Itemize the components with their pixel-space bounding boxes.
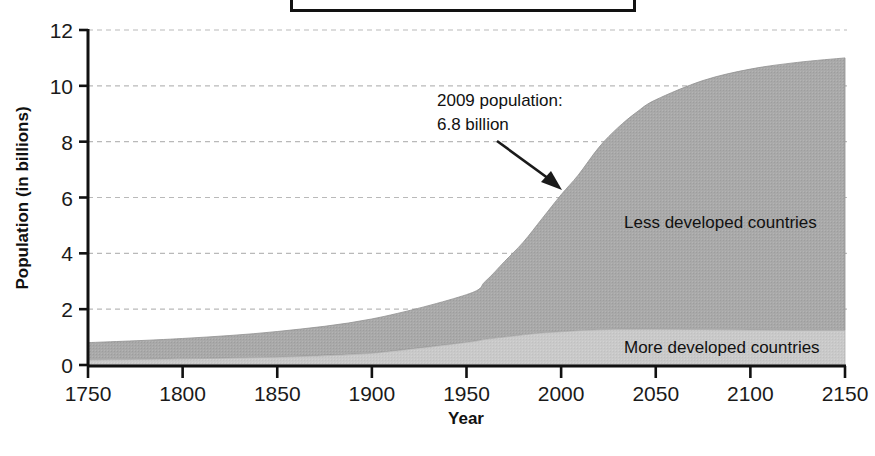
annotation-2009-population: 2009 population: 6.8 billion (437, 91, 563, 190)
x-tick-label-2150: 2150 (822, 382, 869, 405)
population-chart-figure: 024681012 175018001850190019502000205021… (0, 0, 875, 456)
x-tick-label-1900: 1900 (349, 382, 396, 405)
x-tick-label-2000: 2000 (538, 382, 585, 405)
annotation-line-1: 2009 population: (437, 91, 563, 110)
y-tick-label-0: 0 (61, 354, 73, 377)
y-tick-label-2: 2 (61, 298, 73, 321)
x-axis-tick-labels: 175018001850190019502000205021002150 (65, 382, 869, 405)
y-tick-label-10: 10 (50, 75, 73, 98)
series-label-less-developed-countries: Less developed countries (624, 213, 817, 232)
x-tick-label-1850: 1850 (254, 382, 301, 405)
y-tick-label-12: 12 (50, 19, 73, 42)
series-label-more-developed-countries: More developed countries (624, 338, 820, 357)
y-tick-label-8: 8 (61, 131, 73, 154)
x-tick-label-1800: 1800 (159, 382, 206, 405)
y-axis-title: Population (in billions) (13, 106, 32, 289)
y-tick-label-6: 6 (61, 187, 73, 210)
x-axis-ticks (88, 366, 845, 378)
y-axis-tick-labels: 024681012 (50, 19, 74, 377)
annotation-line-2: 6.8 billion (437, 115, 509, 134)
x-tick-label-2100: 2100 (727, 382, 774, 405)
x-axis-title: Year (448, 409, 484, 428)
chart-canvas: 024681012 175018001850190019502000205021… (0, 0, 875, 456)
x-tick-label-1750: 1750 (65, 382, 112, 405)
x-tick-label-1950: 1950 (443, 382, 490, 405)
y-tick-label-4: 4 (61, 242, 73, 265)
x-tick-label-2050: 2050 (632, 382, 679, 405)
